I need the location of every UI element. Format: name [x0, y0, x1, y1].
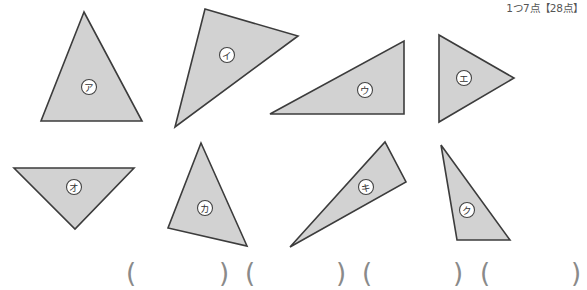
answer-box-4[interactable]: ( ): [480, 258, 581, 288]
label-ka: カ: [200, 203, 210, 214]
triangle-worksheet: ア イ ウ エ オ カ キ ク ( ) (: [0, 0, 587, 290]
answer-1-close-paren: ): [219, 258, 229, 288]
answer-box-3[interactable]: ( ): [362, 258, 463, 288]
figure-u: ウ: [270, 41, 404, 114]
answer-box-2[interactable]: ( ): [245, 258, 346, 288]
triangle-o: [14, 168, 134, 229]
label-ki: キ: [361, 182, 371, 193]
figure-o: オ: [14, 168, 134, 229]
figure-ka: カ: [168, 143, 247, 246]
answer-4-open-paren: (: [480, 258, 490, 288]
answer-3-close-paren: ): [453, 258, 463, 288]
label-i: イ: [222, 50, 232, 61]
label-ku: ク: [462, 205, 472, 216]
triangle-ka: [168, 143, 247, 246]
triangle-a: [41, 12, 142, 121]
answer-4-close-paren: ): [571, 258, 581, 288]
answer-2-close-paren: ): [336, 258, 346, 288]
label-u: ウ: [360, 85, 370, 96]
label-e: エ: [459, 73, 469, 84]
figure-a: ア: [41, 12, 142, 121]
answer-2-open-paren: (: [245, 258, 255, 288]
figure-ki: キ: [290, 142, 406, 247]
label-o: オ: [69, 182, 79, 193]
answer-box-1[interactable]: ( ): [126, 258, 229, 288]
triangle-ki: [290, 142, 406, 247]
triangle-e: [439, 35, 514, 122]
triangle-u: [270, 41, 404, 114]
triangle-ku: [441, 145, 510, 240]
answer-1-open-paren: (: [126, 258, 136, 288]
answer-3-open-paren: (: [362, 258, 372, 288]
figure-e: エ: [439, 35, 514, 122]
label-a: ア: [84, 82, 94, 93]
figure-ku: ク: [441, 145, 510, 240]
